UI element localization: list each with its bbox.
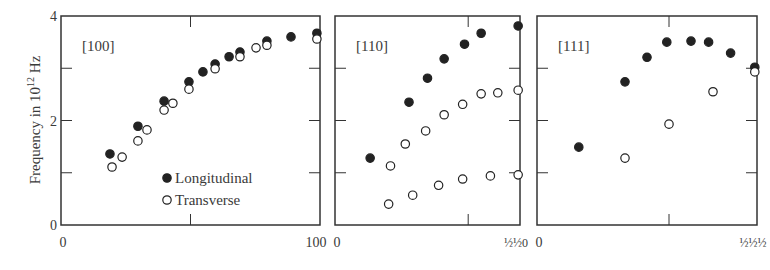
transverse-point xyxy=(514,171,522,179)
longitudinal-point xyxy=(514,22,522,30)
transverse-point xyxy=(409,191,417,199)
transverse-point xyxy=(751,68,759,76)
transverse-point xyxy=(236,53,244,61)
x-tick-label: ½½½ xyxy=(740,236,767,250)
longitudinal-point xyxy=(287,33,295,41)
panel-110: [110]0½½0 xyxy=(334,16,529,250)
transverse-point xyxy=(252,44,260,52)
transverse-point xyxy=(211,65,219,73)
x-tick-label: 0 xyxy=(536,235,543,250)
longitudinal-point xyxy=(726,49,734,57)
x-tick-label: 0 xyxy=(60,235,67,250)
legend: LongitudinalTransverse xyxy=(163,170,253,208)
transverse-point xyxy=(486,172,494,180)
x-tick-label: ½½0 xyxy=(504,236,528,250)
legend-label: Transverse xyxy=(175,192,241,208)
transverse-point xyxy=(263,41,271,49)
transverse-point xyxy=(458,100,466,108)
panel-100: [100]0100024LongitudinalTransverse xyxy=(50,9,327,250)
longitudinal-point xyxy=(160,97,168,105)
longitudinal-point xyxy=(225,53,233,61)
longitudinal-point xyxy=(460,40,468,48)
longitudinal-point xyxy=(134,122,142,130)
longitudinal-point xyxy=(366,154,374,162)
longitudinal-point xyxy=(440,55,448,63)
panel-111: [111]0½½½ xyxy=(536,16,767,250)
filled-circle-icon xyxy=(163,174,171,182)
transverse-point xyxy=(313,35,321,43)
transverse-point xyxy=(134,137,142,145)
transverse-point xyxy=(434,181,442,189)
transverse-point xyxy=(709,88,717,96)
longitudinal-point xyxy=(621,78,629,86)
longitudinal-point xyxy=(575,143,583,151)
longitudinal-point xyxy=(423,74,431,82)
transverse-point xyxy=(386,162,394,170)
y-tick-label: 2 xyxy=(50,114,57,129)
transverse-point xyxy=(477,90,485,98)
panel-title: [100] xyxy=(82,38,115,54)
transverse-point xyxy=(185,85,193,93)
transverse-point xyxy=(169,99,177,107)
transverse-point xyxy=(514,86,522,94)
longitudinal-point xyxy=(477,29,485,37)
open-circle-icon xyxy=(163,196,171,204)
y-axis-label: Frequency in 1012 Hz xyxy=(25,55,43,184)
longitudinal-point xyxy=(687,37,695,45)
transverse-point xyxy=(143,126,151,134)
phonon-dispersion-chart: Frequency in 1012 Hz [100]0100024Longitu… xyxy=(0,0,770,270)
longitudinal-point xyxy=(106,150,114,158)
x-tick-label: 0 xyxy=(334,235,341,250)
x-tick-label: 100 xyxy=(306,235,327,250)
transverse-point xyxy=(621,154,629,162)
longitudinal-point xyxy=(643,53,651,61)
transverse-point xyxy=(401,140,409,148)
transverse-point xyxy=(118,153,126,161)
transverse-point xyxy=(160,106,168,114)
transverse-point xyxy=(440,111,448,119)
y-tick-label: 0 xyxy=(50,218,57,233)
longitudinal-point xyxy=(663,38,671,46)
y-tick-label: 4 xyxy=(50,9,57,24)
panel-title: [110] xyxy=(356,38,388,54)
longitudinal-point xyxy=(405,98,413,106)
transverse-point xyxy=(421,127,429,135)
transverse-point xyxy=(108,163,116,171)
transverse-point xyxy=(384,200,392,208)
svg-text:Frequency in 1012 Hz: Frequency in 1012 Hz xyxy=(25,55,43,184)
longitudinal-point xyxy=(704,38,712,46)
transverse-point xyxy=(458,175,466,183)
panel-title: [111] xyxy=(558,38,589,54)
transverse-point xyxy=(494,89,502,97)
transverse-point xyxy=(665,120,673,128)
legend-label: Longitudinal xyxy=(175,170,253,186)
longitudinal-point xyxy=(199,68,207,76)
